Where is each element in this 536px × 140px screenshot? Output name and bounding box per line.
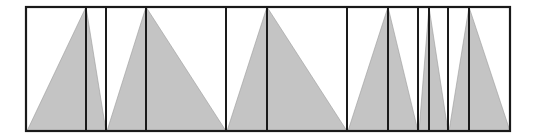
triangle-5 [419, 7, 448, 131]
triangle-4 [348, 7, 418, 131]
triangle-partition-diagram [0, 0, 536, 140]
triangle-2 [107, 7, 226, 131]
triangle-6 [449, 7, 510, 131]
triangles-layer [27, 7, 510, 131]
triangle-1 [27, 7, 106, 131]
triangle-3 [227, 7, 347, 131]
